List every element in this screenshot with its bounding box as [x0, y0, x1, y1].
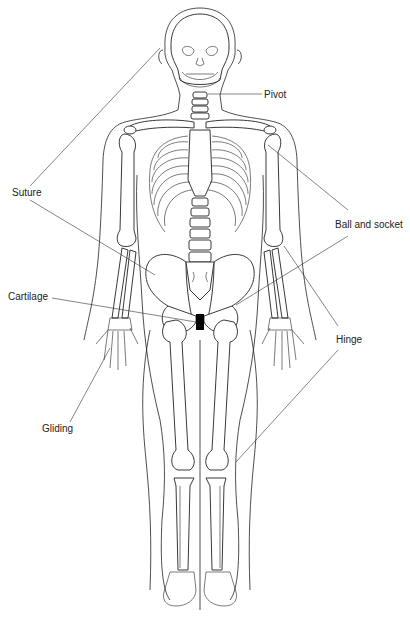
skeleton-joints-diagram: Pivot Suture Ball and socket Cartilage H… — [0, 0, 410, 625]
label-ball-and-socket: Ball and socket — [335, 219, 403, 230]
leader-hinge-elbow — [284, 246, 338, 326]
cervical-spine — [191, 92, 209, 119]
label-suture: Suture — [12, 187, 42, 198]
leader-ball-socket-shoulder — [268, 145, 348, 210]
label-gliding: Gliding — [42, 423, 73, 434]
label-hinge: Hinge — [336, 334, 363, 345]
ribs-left — [152, 142, 192, 226]
leader-suture-skull — [30, 48, 160, 186]
leg-right — [204, 320, 237, 606]
leader-gliding — [70, 348, 110, 422]
pubic-symphysis-cartilage — [196, 314, 204, 330]
label-cartilage: Cartilage — [8, 291, 48, 302]
ribcage — [150, 130, 251, 232]
leg-left — [163, 320, 196, 606]
lumbar-spine — [189, 198, 211, 262]
pelvis — [146, 254, 254, 333]
ribs-right — [208, 142, 248, 226]
skull — [171, 14, 229, 87]
label-pivot: Pivot — [264, 89, 286, 100]
